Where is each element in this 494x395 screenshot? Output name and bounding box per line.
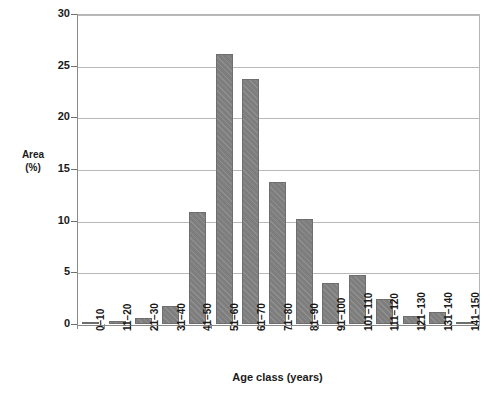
x-tick-label-text: 141–150 bbox=[469, 292, 483, 331]
bar bbox=[242, 79, 259, 324]
x-tick-label-text: 111–120 bbox=[388, 293, 402, 331]
x-tick-label-text: 41–50 bbox=[201, 303, 215, 331]
x-tick-label-text: 11–20 bbox=[121, 304, 135, 331]
x-tick-label-text: 101–110 bbox=[362, 293, 376, 331]
y-axis-title-line-1: Area bbox=[8, 148, 58, 161]
x-tick-label-text: 131–140 bbox=[442, 292, 456, 331]
bar bbox=[216, 54, 233, 324]
y-tick-label-20: 20 bbox=[30, 111, 70, 122]
x-tick-label-text: 71–80 bbox=[282, 303, 296, 331]
y-tick-label-0: 0 bbox=[30, 318, 70, 329]
x-tick-label-text: 31–40 bbox=[175, 303, 189, 331]
y-tick-label-25: 25 bbox=[30, 60, 70, 71]
x-tick-label-text: 121–130 bbox=[415, 292, 429, 331]
y-tick-label-10: 10 bbox=[30, 215, 70, 226]
x-tick-label-text: 51–60 bbox=[228, 303, 242, 331]
y-tick-label-30: 30 bbox=[30, 8, 70, 19]
chart-figure: Area (%) 051015202530 0–1011–2021–3031–4… bbox=[0, 0, 494, 395]
x-tick-label-text: 0–10 bbox=[94, 309, 108, 331]
x-tick-label-text: 61–70 bbox=[255, 303, 269, 331]
x-axis-title: Age class (years) bbox=[77, 371, 478, 383]
x-tick-label-text: 21–30 bbox=[148, 303, 162, 331]
x-tick-mark-0 bbox=[77, 324, 78, 329]
bar-series bbox=[77, 14, 478, 324]
x-tick-label-text: 91–100 bbox=[335, 298, 349, 331]
y-tick-label-15: 15 bbox=[30, 163, 70, 174]
y-tick-label-5: 5 bbox=[30, 266, 70, 277]
x-tick-label-text: 81–90 bbox=[308, 303, 322, 331]
